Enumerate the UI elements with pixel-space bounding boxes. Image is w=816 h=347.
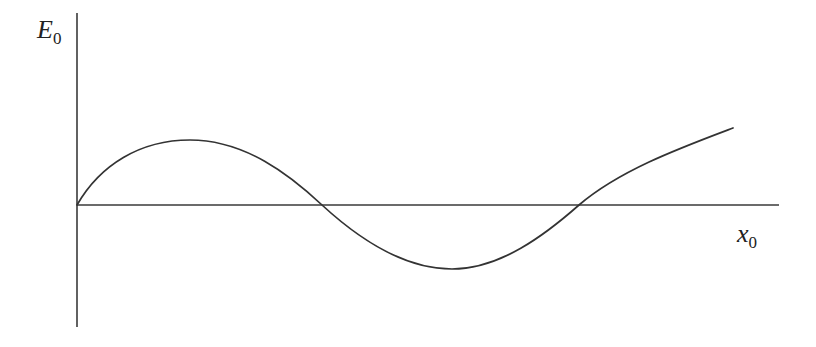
e0-curve <box>77 128 733 269</box>
y-axis-label-sub: 0 <box>53 29 62 48</box>
diagram-canvas: E0 x0 <box>0 0 816 347</box>
x-axis-label-main: x <box>736 219 749 248</box>
y-axis-label-main: E <box>36 15 53 44</box>
x-axis-label: x0 <box>736 219 757 252</box>
y-axis-label: E0 <box>36 15 61 48</box>
x-axis-label-sub: 0 <box>749 233 758 252</box>
